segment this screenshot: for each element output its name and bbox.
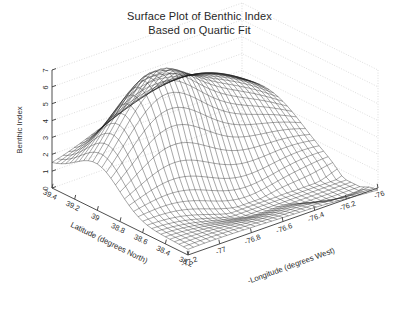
z-tick-label: 2 (41, 153, 50, 157)
axis-labels: 0123456739.439.23938.838.638.438.2-77.2-… (15, 68, 386, 285)
plot-axes (52, 69, 378, 255)
plot-box-gridlines (52, 3, 378, 188)
latitude-tick-label: 39 (90, 211, 101, 223)
z-tick-label: 7 (41, 68, 50, 72)
surface-plot-figure: 0123456739.439.23938.838.638.438.2-77.2-… (0, 0, 399, 310)
longitude-tick-label: -77 (214, 244, 227, 256)
surface-wireframe-mesh (52, 68, 378, 249)
z-tick-label: 5 (41, 102, 50, 106)
z-tick-label: 6 (41, 85, 50, 89)
longitude-tick-label: -76 (373, 189, 386, 201)
z-axis-label: Benthic Index (15, 106, 24, 153)
z-tick-label: 3 (41, 136, 50, 140)
z-tick-label: 4 (41, 119, 50, 123)
z-tick-label: 1 (41, 170, 50, 174)
y-axis-label: Latitude (degrees North) (69, 220, 149, 265)
x-axis-label: -Longitude (degrees West) (246, 246, 336, 286)
